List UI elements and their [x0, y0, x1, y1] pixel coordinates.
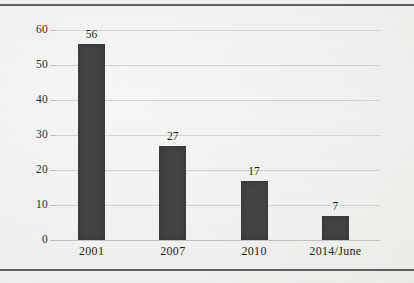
bar[interactable] [322, 216, 349, 241]
y-tick-mark-10 [50, 205, 56, 206]
x-axis-category-label: 2010 [209, 245, 299, 257]
x-axis-category-label: 2007 [128, 245, 218, 257]
bar-value-label: 27 [148, 131, 198, 143]
y-tick-mark-20 [50, 170, 56, 171]
x-axis-category-label: 2014/June [290, 245, 380, 257]
y-tick-mark-50 [50, 65, 56, 66]
x-axis-category-label: 2001 [47, 245, 137, 257]
y-axis-tick-label: 60 [0, 24, 48, 36]
y-axis-tick-label: 50 [0, 59, 48, 71]
y-tick-mark-60 [50, 30, 56, 31]
bar-chart-plot-area: 010203040506056200127200717201072014/Jun… [0, 0, 414, 283]
bar-value-label: 17 [229, 166, 279, 178]
y-axis-tick-label: 30 [0, 129, 48, 141]
gridline-0 [55, 240, 380, 241]
bar[interactable] [241, 181, 268, 241]
y-axis-tick-label: 10 [0, 199, 48, 211]
y-tick-mark-40 [50, 100, 56, 101]
y-axis-tick-label: 0 [0, 234, 48, 246]
y-axis-tick-label: 40 [0, 94, 48, 106]
bar-value-label: 56 [67, 29, 117, 41]
bar[interactable] [159, 146, 186, 241]
y-axis-tick-label: 20 [0, 164, 48, 176]
bar[interactable] [78, 44, 105, 240]
y-tick-mark-0 [50, 240, 56, 241]
bar-value-label: 7 [310, 201, 360, 213]
y-tick-mark-30 [50, 135, 56, 136]
